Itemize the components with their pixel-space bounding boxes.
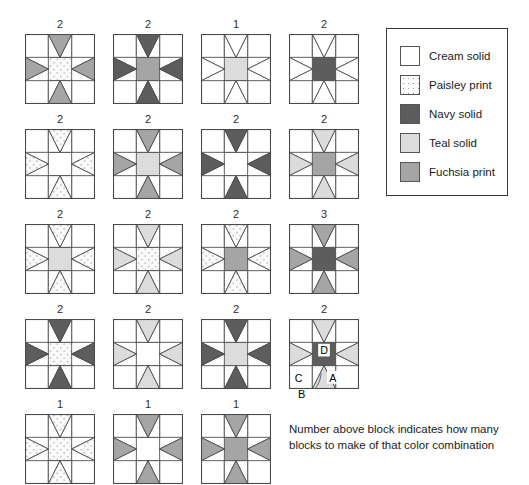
star-point-triangle [336,152,359,175]
callout-label-c: C [295,372,303,384]
corner-square [160,366,183,389]
star-point-triangle [113,342,136,365]
corner-square [336,129,359,152]
legend-swatch-teal [400,133,420,153]
star-point-triangle [25,247,48,270]
corner-square [289,271,312,294]
corner-square [113,271,136,294]
block-quantity-label: 2 [57,113,63,126]
block-quantity-label: 2 [233,208,239,221]
corner-square [201,34,224,57]
legend-swatch-navy [400,104,420,124]
block-quantity-label: 2 [145,18,151,31]
legend-item: Fuchsia print [400,157,495,186]
corner-square [289,34,312,57]
block-row: 2223 [16,208,368,294]
star-point-triangle [160,247,183,270]
corner-square [248,224,271,247]
star-point-triangle [113,57,136,80]
center-square [224,342,247,365]
sawtooth-star-block [289,34,359,104]
corner-square [72,176,95,199]
quilt-block-cell: 2 [104,303,192,389]
quilt-block-cell: 2 [280,113,368,199]
block-quantity-label: 1 [57,398,63,411]
star-point-triangle [336,342,359,365]
center-square [48,342,71,365]
center-square [224,57,247,80]
star-point-triangle [160,437,183,460]
center-square [48,57,71,80]
star-point-triangle [72,152,95,175]
corner-square [113,414,136,437]
block-row: 2222DACB [16,303,368,389]
sawtooth-star-block [201,319,271,389]
corner-square [336,224,359,247]
corner-square [25,34,48,57]
legend-swatch-paisley [400,75,420,95]
corner-square [25,176,48,199]
sawtooth-star-block [201,34,271,104]
corner-square [248,81,271,104]
quilt-block-cell: 3 [280,208,368,294]
sawtooth-star-block [201,129,271,199]
corner-square [160,176,183,199]
quilt-block-cell: 2 [16,113,104,199]
sawtooth-star-block [25,414,95,484]
block-quantity-label: 2 [233,303,239,316]
corner-square [113,461,136,484]
star-point-triangle [201,437,224,460]
caption-line-1: Number above block indicates how many [289,423,499,435]
quilt-block-cell: 2 [16,208,104,294]
quilt-block-cell: 1 [104,398,192,484]
star-point-triangle [336,57,359,80]
block-quantity-label: 1 [145,398,151,411]
block-quantity-label: 2 [321,303,327,316]
corner-square [25,129,48,152]
legend-swatch-cream [400,46,420,66]
quilt-block-cell: 2 [192,303,280,389]
sawtooth-star-block [113,129,183,199]
callout-label-b: B [298,388,305,400]
sawtooth-star-block [201,414,271,484]
star-point-triangle [289,152,312,175]
corner-square [160,319,183,342]
star-point-triangle [25,342,48,365]
star-point-triangle [248,57,271,80]
center-square [312,57,335,80]
star-point-triangle [160,152,183,175]
star-point-triangle [336,247,359,270]
corner-square [113,129,136,152]
corner-square [113,81,136,104]
quilt-block-grid: 2212222222232222DACB111 [16,18,368,485]
center-square [48,152,71,175]
corner-square [201,224,224,247]
corner-square [336,319,359,342]
corner-square [113,176,136,199]
corner-square [113,319,136,342]
corner-square [25,81,48,104]
sawtooth-star-block [25,129,95,199]
corner-square [160,414,183,437]
star-point-triangle [25,152,48,175]
center-square [136,152,159,175]
corner-square [201,366,224,389]
sawtooth-star-block [25,319,95,389]
corner-square [336,271,359,294]
star-point-triangle [248,437,271,460]
corner-square [248,34,271,57]
legend-item: Paisley print [400,70,495,99]
star-point-triangle [72,247,95,270]
corner-square [113,34,136,57]
callout-label-a: A [329,372,337,384]
quilt-block-cell: 2 [104,18,192,104]
corner-square [248,414,271,437]
block-quantity-label: 2 [321,113,327,126]
block-quantity-label: 3 [321,208,327,221]
corner-square [201,129,224,152]
corner-square [72,366,95,389]
corner-square [160,224,183,247]
sawtooth-star-block [289,129,359,199]
block-quantity-label: 2 [145,208,151,221]
quilt-block-cell: 1 [192,398,280,484]
